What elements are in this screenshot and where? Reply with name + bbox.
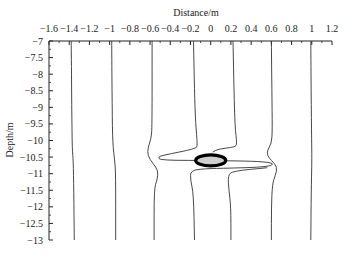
x-tick-label: −1.4 (60, 23, 78, 34)
depth-distance-chart: Distance/m −1.6−1.4−1.2−1−0.8−0.6−0.4−0.… (0, 0, 354, 259)
tunnel-ellipse-icon (196, 155, 226, 166)
x-tick-label: 0.2 (225, 23, 238, 34)
y-tick-label: −7 (32, 36, 43, 47)
y-tick-label: −13 (27, 235, 43, 246)
series-line-6 (267, 41, 276, 240)
series-line-4 (159, 41, 273, 240)
y-tick-label: −11.5 (20, 185, 43, 196)
x-tick-label: 1 (309, 23, 314, 34)
x-tick-label: 0.8 (285, 23, 298, 34)
y-tick-label: −11 (28, 168, 43, 179)
y-tick-label: −12.5 (20, 218, 43, 229)
series-line-1 (71, 41, 74, 240)
series-line-3 (148, 41, 158, 240)
x-tick-label: −1.6 (40, 23, 58, 34)
x-tick-label: −0.8 (121, 23, 139, 34)
y-axis-title: Depth/m (4, 122, 15, 157)
plot-area (71, 41, 312, 240)
y-tick-label: −8 (32, 69, 43, 80)
y-tick-label: −8.5 (25, 85, 43, 96)
x-tick-label: −0.2 (181, 23, 199, 34)
x-tick-label: −0.4 (161, 23, 179, 34)
x-tick-label: 0.4 (245, 23, 258, 34)
y-tick-label: −9 (32, 102, 43, 113)
x-tick-label: −1.2 (80, 23, 98, 34)
y-tick-label: −7.5 (25, 52, 43, 63)
y-tick-label: −9.5 (25, 118, 43, 129)
series-line-5b (228, 168, 267, 240)
x-tick-label: 1.2 (326, 23, 339, 34)
y-tick-label: −10 (27, 135, 43, 146)
x-tick-label: −0.6 (141, 23, 159, 34)
y-tick-label: −12 (27, 201, 43, 212)
x-axis-title: Distance/m (173, 7, 219, 18)
y-axis: −7−7.5−8−8.5−9−9.5−10−10.5−11−11.5−12−12… (20, 36, 53, 246)
series-line-5 (213, 41, 237, 152)
x-tick-label: 0 (208, 23, 213, 34)
x-tick-label: 0.6 (265, 23, 278, 34)
x-tick-label: −1 (104, 23, 115, 34)
x-axis: −1.6−1.4−1.2−1−0.8−0.6−0.4−0.200.20.40.6… (40, 23, 338, 45)
series-line-7 (311, 41, 312, 240)
tunnel-annotation (196, 155, 226, 166)
y-tick-label: −10.5 (20, 152, 43, 163)
series-line-2 (112, 41, 116, 240)
